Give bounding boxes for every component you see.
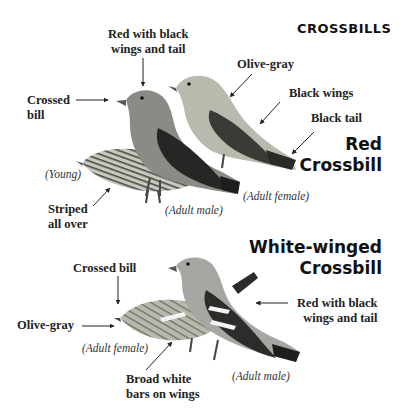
note-adult-female: (Adult female) (243, 190, 309, 202)
annotation-text: bars on wings (126, 387, 200, 402)
annotation-crossed-bill: Crossed bill (27, 93, 70, 123)
annotation-striped: Striped all over (48, 202, 88, 232)
note-ww-adult-male: (Adult male) (232, 370, 290, 382)
annotation-black-wings: Black wings (289, 86, 353, 101)
species-title-line2: Crossbill (249, 258, 382, 279)
annotation-ww-crossed-bill: Crossed bill (73, 261, 136, 276)
annotation-black-tail: Black tail (311, 111, 362, 126)
species-title-line1: White-winged (249, 237, 382, 258)
annotation-ww-red-with-black: Red with black wings and tail (297, 296, 378, 326)
annotation-text: all over (48, 217, 88, 232)
annotation-text: wings and tail (297, 311, 378, 326)
note-ww-adult-female: (Adult female) (82, 342, 148, 354)
species-title-white-winged-crossbill: White-winged Crossbill (249, 237, 382, 279)
annotation-red-with-black: Red with black wings and tail (108, 27, 189, 57)
note-adult-male: (Adult male) (165, 204, 223, 216)
annotation-text: wings and tail (108, 42, 189, 57)
annotation-text: bill (27, 108, 70, 123)
annotation-text: Striped (48, 202, 88, 217)
annotation-olive-gray: Olive-gray (237, 57, 294, 72)
arrow-broad-white-bars (146, 342, 172, 370)
species-title-line1: Red (300, 134, 382, 155)
annotation-text: Crossed (27, 93, 70, 108)
annotation-broad-white-bars: Broad white bars on wings (126, 372, 200, 402)
arrow-striped (93, 188, 110, 206)
annotation-ww-olive-gray: Olive-gray (17, 318, 74, 333)
arrow-black-wings (260, 102, 280, 124)
arrow-olive-gray (230, 74, 252, 97)
species-title-line2: Crossbill (300, 155, 382, 176)
species-title-red-crossbill: Red Crossbill (300, 134, 382, 176)
annotation-text: Broad white (126, 372, 200, 387)
note-young: (Young) (45, 168, 81, 180)
page-title: CROSSBILLS (297, 21, 391, 36)
annotation-text: Red with black (108, 27, 189, 42)
annotation-text: Red with black (297, 296, 378, 311)
